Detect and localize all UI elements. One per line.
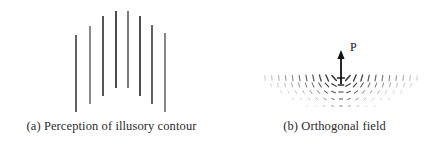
field-tick — [356, 98, 358, 99]
figure-root: (a) Perception of illusory contour P (b)… — [0, 0, 438, 151]
panel-orthogonal-field: P (b) Orthogonal field — [219, 0, 438, 151]
field-tick — [317, 91, 319, 94]
field-tick — [368, 75, 369, 81]
field-tick — [323, 106, 325, 107]
field-tick — [357, 106, 359, 107]
field-tick — [312, 83, 314, 87]
field-tick — [319, 75, 321, 81]
field-tick — [348, 99, 351, 100]
field-tick — [388, 98, 389, 100]
panel-b-caption: (b) Orthogonal field — [219, 119, 438, 134]
field-tick — [385, 91, 386, 94]
field-tick — [291, 83, 292, 87]
field-tick — [306, 75, 307, 81]
field-tick — [353, 83, 356, 87]
field-tick — [396, 75, 397, 80]
field-tick — [393, 91, 394, 94]
field-tick — [382, 75, 383, 81]
illusory-contour-diagram — [0, 0, 219, 119]
field-tick — [332, 84, 337, 86]
field-tick — [325, 83, 328, 87]
field-tick — [411, 83, 412, 86]
field-tick — [288, 91, 289, 94]
field-tick — [332, 99, 335, 100]
field-tick — [324, 98, 326, 99]
field-tick — [331, 106, 333, 107]
field-tick — [397, 83, 398, 87]
field-tick — [332, 75, 336, 80]
field-tick — [332, 91, 336, 92]
field-tick — [310, 91, 312, 94]
field-tick — [306, 105, 307, 106]
field-tick — [348, 106, 350, 107]
field-tick — [346, 75, 350, 80]
field-tick — [299, 75, 300, 81]
arrow-label-p: P — [350, 40, 357, 55]
arrow-head — [337, 50, 344, 59]
field-tick — [278, 83, 279, 87]
field-tick — [372, 98, 374, 100]
field-tick — [285, 83, 286, 87]
field-tick — [354, 91, 357, 93]
field-tick — [366, 105, 367, 106]
field-tick — [347, 91, 351, 92]
field-tick — [361, 83, 364, 87]
field-tick — [346, 84, 351, 86]
field-tick — [354, 75, 357, 81]
field-tick — [295, 91, 296, 94]
field-tick — [364, 98, 366, 100]
field-tick — [300, 98, 301, 100]
panel-illusory-contour: (a) Perception of illusory contour — [0, 0, 219, 151]
field-tick — [361, 75, 363, 81]
field-tick — [375, 75, 376, 81]
field-tick — [404, 83, 405, 87]
field-tick — [271, 83, 272, 86]
field-tick — [389, 75, 390, 80]
field-tick — [380, 98, 381, 100]
field-tick — [382, 83, 383, 87]
field-tick — [362, 91, 364, 94]
field-tick — [375, 83, 377, 87]
field-tick — [298, 83, 299, 87]
field-tick — [292, 75, 293, 80]
field-tick — [285, 75, 286, 80]
field-tick — [319, 83, 322, 87]
field-tick — [326, 75, 329, 81]
field-tick — [316, 98, 318, 100]
field-tick — [378, 91, 380, 94]
field-tick — [401, 91, 402, 94]
field-tick — [303, 91, 305, 94]
field-tick — [281, 91, 282, 94]
field-tick — [374, 105, 375, 106]
field-tick — [370, 91, 372, 94]
field-tick — [292, 98, 293, 100]
field-tick — [389, 83, 390, 87]
orthogonal-field-diagram — [219, 0, 438, 119]
field-tick — [368, 83, 370, 87]
field-tick — [315, 105, 316, 106]
field-tick — [305, 83, 307, 87]
field-tick — [313, 75, 314, 81]
field-tick — [324, 91, 327, 93]
panel-a-caption: (a) Perception of illusory contour — [0, 119, 221, 134]
field-tick — [308, 98, 310, 100]
